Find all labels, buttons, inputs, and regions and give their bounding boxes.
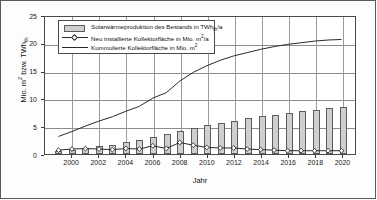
data-point-marker bbox=[177, 140, 182, 145]
x-tick-mark bbox=[125, 155, 126, 158]
y-tick-label: 15 bbox=[0, 68, 37, 75]
data-point-marker bbox=[204, 145, 209, 150]
x-tick-mark bbox=[261, 155, 262, 158]
data-point-marker bbox=[70, 147, 75, 152]
y-tick-label: 5 bbox=[0, 124, 37, 131]
x-tick-mark bbox=[71, 155, 72, 158]
y-tick-label: 10 bbox=[0, 96, 37, 103]
x-tick-mark bbox=[98, 155, 99, 158]
x-tick-mark bbox=[207, 155, 208, 158]
x-tick-mark bbox=[234, 155, 235, 158]
legend-label-solar-heat-production: Solarwärmeproduktion des Bestands in TWh… bbox=[91, 23, 222, 33]
legend-label-cumulative-area: Kummulierte Kollektorfläche in Mio. m2 bbox=[91, 42, 197, 51]
legend-key-bar-swatch bbox=[62, 24, 88, 33]
chart-figure: Mio. m2 bzw. TWhth 0510152025 2000200220… bbox=[0, 0, 377, 200]
chart-legend: Solarwärmeproduktion des Bestands in TWh… bbox=[58, 20, 215, 54]
data-point-marker bbox=[312, 148, 317, 153]
x-tick-mark bbox=[180, 155, 181, 158]
data-point-marker bbox=[83, 146, 88, 151]
y-tick-label: 25 bbox=[0, 13, 37, 20]
data-point-marker bbox=[150, 143, 155, 148]
x-tick-label: 2020 bbox=[322, 159, 362, 166]
data-point-marker bbox=[137, 147, 142, 152]
x-axis-title: Jahr bbox=[44, 176, 356, 185]
data-point-marker bbox=[245, 147, 250, 152]
data-point-marker bbox=[110, 147, 115, 152]
data-point-marker bbox=[218, 146, 223, 151]
data-point-marker bbox=[285, 148, 290, 153]
line-cumulative-collector-area bbox=[58, 39, 341, 136]
legend-label-2-main: Kummulierte Kollektorfläche in Mio. m bbox=[91, 45, 195, 52]
legend-label-0-tail: /a bbox=[217, 23, 222, 30]
data-point-marker bbox=[164, 146, 169, 151]
legend-item-new-installed-area: Neu installierte Kollektorfläche in Mio.… bbox=[62, 33, 211, 42]
legend-item-solar-heat-production: Solarwärmeproduktion des Bestands in TWh… bbox=[62, 24, 211, 33]
legend-label-0-main: Solarwärmeproduktion des Bestands in TWh bbox=[91, 23, 213, 30]
legend-label-2-sup: 2 bbox=[195, 43, 198, 48]
x-tick-mark bbox=[288, 155, 289, 158]
data-point-marker bbox=[123, 146, 128, 151]
legend-key-line bbox=[62, 43, 88, 52]
legend-item-cumulative-area: Kummulierte Kollektorfläche in Mio. m2 bbox=[62, 43, 211, 52]
data-point-marker bbox=[56, 148, 61, 153]
legend-label-1-tail: /a bbox=[204, 35, 209, 42]
x-tick-mark bbox=[153, 155, 154, 158]
data-point-marker bbox=[97, 147, 102, 152]
data-point-marker bbox=[326, 148, 331, 153]
y-tick-mark bbox=[41, 155, 44, 156]
x-tick-mark bbox=[315, 155, 316, 158]
data-point-marker bbox=[231, 146, 236, 151]
legend-label-new-installed-area: Neu installierte Kollektorfläche in Mio.… bbox=[91, 33, 209, 42]
data-point-marker bbox=[258, 147, 263, 152]
data-point-marker bbox=[339, 148, 344, 153]
y-axis-title-sup: 2 bbox=[17, 77, 23, 80]
data-point-marker bbox=[272, 148, 277, 153]
x-tick-mark bbox=[342, 155, 343, 158]
y-tick-label: 0 bbox=[0, 152, 37, 159]
legend-label-1-main: Neu installierte Kollektorfläche in Mio.… bbox=[91, 35, 201, 42]
data-point-marker bbox=[191, 143, 196, 148]
data-point-marker bbox=[299, 148, 304, 153]
legend-key-line-diamond bbox=[62, 33, 88, 42]
y-tick-label: 20 bbox=[0, 40, 37, 47]
